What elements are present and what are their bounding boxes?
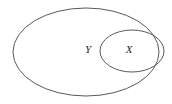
euler-diagram-canvas: Y X (0, 0, 172, 104)
set-label-y: Y (85, 43, 93, 55)
set-label-x: X (125, 43, 134, 55)
venn-diagram-svg: Y X (0, 0, 172, 104)
